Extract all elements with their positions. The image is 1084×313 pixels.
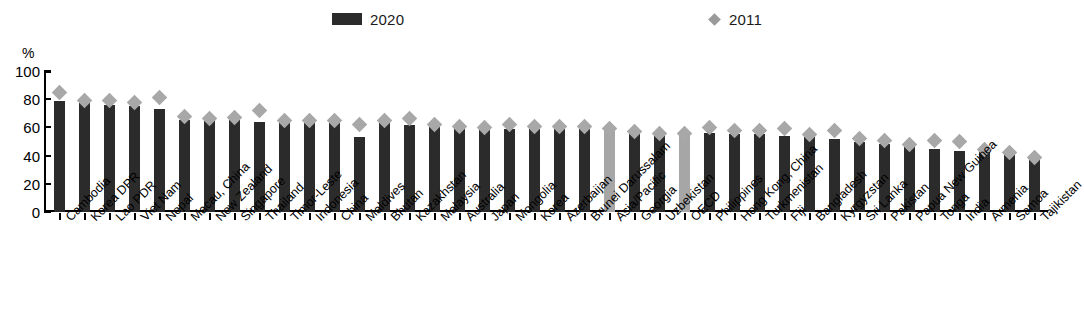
- y-axis-tick-20: 20: [0, 176, 40, 191]
- y-axis-tick-mark: [44, 155, 51, 157]
- y-axis-tick-mark: [44, 183, 51, 185]
- y-axis-tick-mark: [44, 126, 51, 128]
- diamond-2011: [252, 103, 268, 119]
- diamond-2011: [952, 134, 968, 150]
- y-axis-tick-mark: [44, 211, 51, 213]
- y-axis-tick-labels: 100806040200: [0, 60, 40, 220]
- diamond-2011: [152, 90, 168, 106]
- diamond-2011: [352, 117, 368, 133]
- diamond-2011: [927, 132, 943, 148]
- y-axis-unit-label: %: [22, 45, 34, 61]
- diamond-2011: [827, 122, 843, 138]
- y-axis-tick-100: 100: [0, 64, 40, 79]
- y-axis-tick-mark: [44, 98, 51, 100]
- y-axis-tick-0: 0: [0, 205, 40, 220]
- y-axis-tick-mark: [44, 70, 51, 72]
- y-axis-tick-60: 60: [0, 120, 40, 135]
- y-axis-line: [44, 71, 46, 212]
- diamond-2011: [777, 121, 793, 137]
- bar-group[interactable]: [54, 71, 66, 212]
- x-axis-category-labels: CambodiaKorea DPRLao PDRViet NamNepalMac…: [47, 214, 1047, 313]
- y-axis-tick-80: 80: [0, 92, 40, 107]
- y-axis-tick-40: 40: [0, 148, 40, 163]
- bar-2020: [54, 101, 66, 212]
- diamond-2011: [52, 84, 68, 100]
